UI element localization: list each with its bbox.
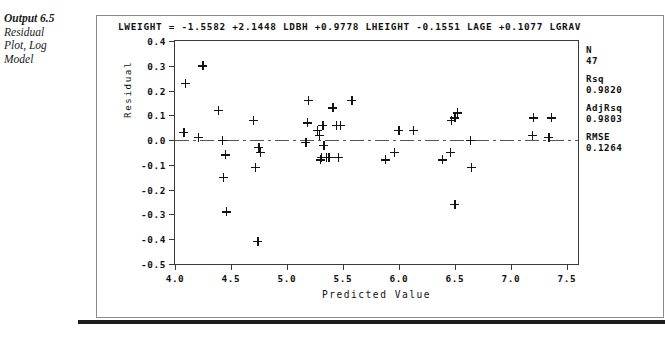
stat-entry: RMSE0.1264 — [586, 131, 656, 153]
data-point-marker — [453, 108, 462, 117]
stat-value: 0.9803 — [586, 113, 656, 124]
data-point-marker — [324, 153, 333, 162]
data-point-marker — [328, 103, 337, 112]
data-point-marker — [381, 155, 390, 164]
stat-entry: AdjRsq0.9803 — [586, 102, 656, 124]
data-point-marker — [547, 113, 556, 122]
stat-name: RMSE — [586, 131, 656, 142]
x-axis-tick-label: 5.0 — [278, 273, 297, 284]
data-point-marker — [214, 106, 223, 115]
residual-plot-frame: 0.40.30.20.10.0-0.1-0.2-0.3-0.4-0.54.04.… — [174, 40, 579, 265]
data-point-marker — [317, 153, 326, 162]
data-point-marker — [450, 200, 459, 209]
y-axis-tick-label: -0.3 — [141, 209, 166, 220]
data-point-marker — [325, 153, 334, 162]
figure-caption: Output 6.5 Residual Plot, Log Model — [4, 12, 84, 66]
data-point-marker — [332, 121, 341, 130]
data-point-marker — [394, 126, 403, 135]
data-point-marker — [322, 153, 331, 162]
y-axis-tick — [169, 115, 175, 116]
caption-line-2: Plot, Log — [4, 39, 84, 53]
data-point-marker — [303, 118, 312, 127]
y-axis-tick-label: 0.2 — [147, 85, 166, 96]
x-axis-tick-label: 7.5 — [557, 273, 576, 284]
zero-reference-line — [175, 140, 578, 141]
stat-value: 0.9820 — [586, 84, 656, 95]
x-axis-tick — [343, 264, 344, 270]
x-axis-tick — [287, 264, 288, 270]
x-axis-title: Predicted Value — [174, 289, 579, 300]
x-axis-tick — [567, 264, 568, 270]
y-axis-tick-label: -0.4 — [141, 234, 166, 245]
data-point-marker — [179, 128, 188, 137]
stat-name: Rsq — [586, 73, 656, 84]
data-point-marker — [390, 148, 399, 157]
x-axis-tick-label: 6.0 — [390, 273, 409, 284]
regression-equation: LWEIGHT = -1.5582 +2.1448 LDBH +0.9778 L… — [118, 21, 581, 32]
data-point-marker — [304, 96, 313, 105]
y-axis-tick — [169, 66, 175, 67]
data-point-marker — [313, 126, 322, 135]
data-point-marker — [319, 141, 328, 150]
stat-entry: Rsq0.9820 — [586, 73, 656, 95]
stat-entry: N47 — [586, 44, 656, 66]
caption-line-1: Residual — [4, 26, 84, 40]
data-point-marker — [181, 79, 190, 88]
data-point-marker — [467, 163, 476, 172]
y-axis-tick — [169, 165, 175, 166]
statistics-panel: N47Rsq0.9820AdjRsq0.9803RMSE0.1264 — [586, 44, 656, 160]
plot-area — [175, 41, 578, 264]
data-point-marker — [347, 96, 356, 105]
data-point-marker — [334, 153, 343, 162]
data-point-marker — [219, 173, 228, 182]
data-point-marker — [251, 163, 260, 172]
data-point-marker — [529, 113, 538, 122]
data-point-marker — [528, 131, 537, 140]
y-axis-tick — [169, 91, 175, 92]
y-axis-tick-label: 0.0 — [147, 135, 166, 146]
x-axis-tick-label: 4.0 — [166, 273, 185, 284]
data-point-marker — [316, 155, 325, 164]
data-point-marker — [447, 116, 456, 125]
y-axis-tick-label: -0.1 — [141, 159, 166, 170]
data-point-marker — [438, 155, 447, 164]
y-axis-tick — [169, 190, 175, 191]
y-axis-tick — [169, 41, 175, 42]
y-axis-tick — [169, 239, 175, 240]
data-point-marker — [315, 131, 324, 140]
y-axis-tick-label: 0.3 — [147, 60, 166, 71]
bottom-rule — [78, 320, 665, 324]
y-axis-tick-label: -0.2 — [141, 184, 166, 195]
x-axis-tick — [455, 264, 456, 270]
data-point-marker — [450, 113, 459, 122]
data-point-marker — [221, 150, 230, 159]
data-point-marker — [253, 237, 262, 246]
x-axis-tick-label: 4.5 — [222, 273, 241, 284]
y-axis-tick-label: 0.1 — [147, 110, 166, 121]
data-point-marker — [254, 143, 263, 152]
x-axis-tick — [511, 264, 512, 270]
stat-name: N — [586, 44, 656, 55]
data-point-marker — [198, 61, 207, 70]
stat-value: 47 — [586, 55, 656, 66]
caption-line-3: Model — [4, 53, 84, 67]
x-axis-tick-label: 7.0 — [501, 273, 520, 284]
y-axis-tick — [169, 140, 175, 141]
stat-value: 0.1264 — [586, 142, 656, 153]
caption-title: Output 6.5 — [4, 12, 84, 26]
x-axis-tick — [399, 264, 400, 270]
y-axis-tick-label: -0.5 — [141, 259, 166, 270]
x-axis-tick-label: 5.5 — [334, 273, 353, 284]
data-point-marker — [256, 148, 265, 157]
x-axis-tick-label: 6.5 — [445, 273, 464, 284]
y-axis-tick-label: 0.4 — [147, 36, 166, 47]
stat-name: AdjRsq — [586, 102, 656, 113]
y-axis-title: Residual — [122, 61, 133, 118]
data-point-marker — [446, 148, 455, 157]
x-axis-tick — [175, 264, 176, 270]
y-axis-tick — [169, 214, 175, 215]
x-axis-tick — [231, 264, 232, 270]
data-point-marker — [249, 116, 258, 125]
data-point-marker — [318, 121, 327, 130]
data-point-marker — [409, 126, 418, 135]
